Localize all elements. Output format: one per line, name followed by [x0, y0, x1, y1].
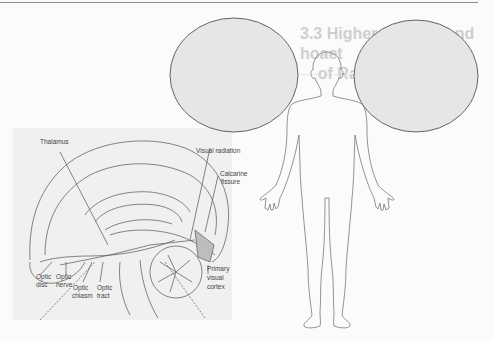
label-optic-disc-1: Optic	[36, 273, 51, 280]
label-optic-chiasm-1: Optic	[73, 284, 88, 291]
label-primary-visual-cortex-2: visual	[207, 274, 224, 281]
label-primary-visual-cortex-3: cortex	[207, 283, 225, 290]
brain-diagram	[30, 141, 229, 320]
label-optic-disc-2: disc	[36, 281, 48, 288]
label-optic-nerve-1: Optic	[56, 273, 71, 280]
label-optic-nerve-2: nerve	[56, 281, 72, 288]
label-optic-tract-1: Optic	[97, 284, 112, 291]
label-calcarine-2: fissure	[221, 178, 240, 185]
right-circle	[354, 20, 478, 132]
label-optic-chiasm-2: chiasm	[72, 292, 93, 299]
label-primary-visual-cortex-1: Primary	[207, 265, 229, 272]
label-optic-tract-2: tract	[97, 292, 110, 299]
label-visual-radiation: Visual radiation	[196, 147, 240, 154]
label-calcarine-1: Calcarine	[220, 170, 247, 177]
left-circle	[170, 18, 298, 132]
label-thalamus: Thalamus	[40, 138, 69, 145]
